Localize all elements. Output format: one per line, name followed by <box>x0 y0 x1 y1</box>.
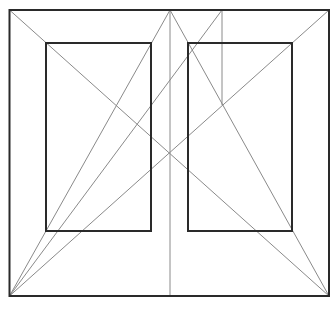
panel-proportion-diagram <box>0 0 335 311</box>
